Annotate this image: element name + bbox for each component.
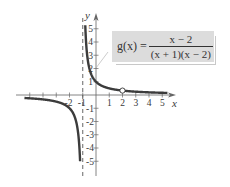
x-tick-label: 1	[107, 98, 112, 108]
hole-marker	[120, 88, 125, 93]
function-numerator: x − 2	[149, 33, 213, 47]
x-axis-label: x	[171, 97, 177, 109]
y-tick-label: -3	[86, 130, 94, 140]
x-tick-label: -2	[65, 98, 73, 108]
y-tick-label: 1	[88, 77, 93, 87]
function-graph: x y -2-11234554321-1-2-3-4-5	[0, 0, 230, 187]
y-tick-label: -5	[86, 157, 94, 167]
x-tick-label: 3	[133, 98, 138, 108]
x-tick-label: 5	[160, 98, 165, 108]
y-axis-label: y	[84, 9, 90, 21]
y-tick-label: 4	[88, 37, 93, 47]
x-tick-label: 2	[120, 98, 125, 108]
y-tick-label: 2	[88, 64, 93, 74]
y-tick-label: 5	[88, 24, 93, 34]
function-fraction: x − 2 (x + 1)(x − 2)	[151, 33, 211, 60]
callout-connector	[96, 52, 108, 68]
function-denominator: (x + 1)(x − 2)	[151, 47, 211, 60]
y-tick-label: -4	[86, 143, 94, 153]
function-label: g(x) =	[117, 39, 147, 54]
y-tick-label: -1	[86, 104, 94, 114]
x-tick-label: 4	[147, 98, 152, 108]
y-tick-label: -2	[86, 117, 94, 127]
y-tick-label: 3	[88, 51, 93, 61]
x-tick-label: -1	[78, 98, 86, 108]
function-callout: g(x) = x − 2 (x + 1)(x − 2)	[112, 31, 214, 62]
